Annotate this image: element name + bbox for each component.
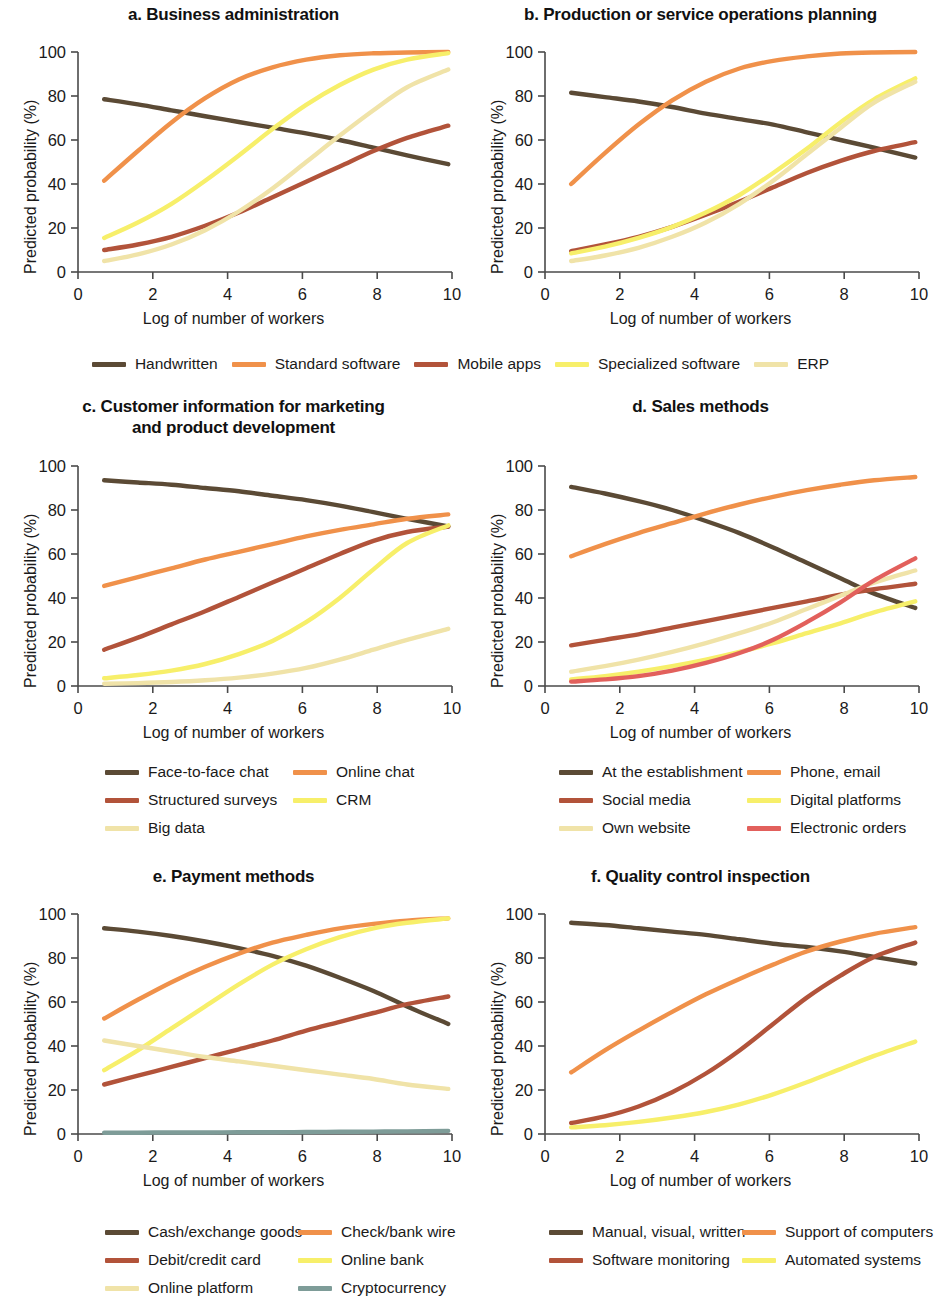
- panel-f-x-axis-label: Log of number of workers: [467, 1172, 934, 1190]
- y-tick-label: 0: [57, 263, 66, 281]
- legend-panels-ef: Cash/exchange goodsCheck/bank wireDebit/…: [0, 1218, 935, 1302]
- legend-item[interactable]: Support of computers: [742, 1218, 935, 1246]
- y-tick-label: 60: [48, 131, 66, 149]
- panel-e-plot: Predicted probability (%) 02040608010002…: [0, 896, 467, 1166]
- legend-panels-ab: HandwrittenStandard softwareMobile appsS…: [0, 350, 935, 378]
- legend-item-label: Online bank: [341, 1246, 424, 1274]
- panel-f-y-axis-label: Predicted probability (%): [489, 962, 507, 1136]
- legend-item[interactable]: ERP: [754, 350, 843, 378]
- panel-a-svg: 0204060801000246810: [0, 34, 467, 304]
- legend-item[interactable]: Online chat: [293, 758, 481, 786]
- y-tick-label: 100: [505, 457, 533, 475]
- legend-item-label: Handwritten: [135, 350, 218, 378]
- legend-item[interactable]: Software monitoring: [549, 1246, 742, 1274]
- legend-item-label: At the establishment: [602, 758, 742, 786]
- y-tick-label: 100: [38, 43, 66, 61]
- legend-item[interactable]: CRM: [293, 786, 481, 814]
- x-tick-label: 4: [223, 699, 232, 717]
- x-tick-label: 10: [910, 699, 928, 717]
- x-tick-label: 6: [765, 1147, 774, 1165]
- panel-c-title-line1: c. Customer information for marketing: [82, 397, 384, 416]
- x-tick-label: 10: [910, 285, 928, 303]
- y-tick-label: 40: [515, 175, 533, 193]
- legend-item[interactable]: Social media: [559, 786, 747, 814]
- legend-swatch-icon: [293, 770, 327, 775]
- legend-item[interactable]: Debit/credit card: [105, 1246, 298, 1274]
- legend-swatch-icon: [747, 826, 781, 831]
- y-tick-label: 100: [505, 43, 533, 61]
- series-line: [104, 52, 448, 181]
- legend-item[interactable]: Cryptocurrency: [298, 1274, 491, 1302]
- legend-swatch-icon: [549, 1230, 583, 1235]
- y-tick-label: 40: [48, 589, 66, 607]
- x-tick-label: 4: [690, 699, 699, 717]
- legend-item-label: Support of computers: [785, 1218, 933, 1246]
- x-tick-label: 10: [443, 1147, 461, 1165]
- legend-item[interactable]: At the establishment: [559, 758, 747, 786]
- x-tick-label: 8: [373, 285, 382, 303]
- legend-item[interactable]: Digital platforms: [747, 786, 935, 814]
- y-tick-label: 60: [515, 993, 533, 1011]
- panel-a-plot: Predicted probability (%) 02040608010002…: [0, 34, 467, 304]
- legend-ab-items: HandwrittenStandard softwareMobile appsS…: [0, 350, 935, 378]
- y-tick-label: 80: [515, 501, 533, 519]
- panel-d-svg: 0204060801000246810: [467, 448, 934, 718]
- legend-swatch-icon: [232, 362, 266, 367]
- legend-item[interactable]: Big data: [105, 814, 293, 842]
- y-tick-label: 20: [48, 633, 66, 651]
- series-line: [104, 99, 448, 164]
- x-tick-label: 4: [690, 1147, 699, 1165]
- panel-row-1: a. Business administration Predicted pro…: [0, 0, 935, 328]
- panel-c: c. Customer information for marketing an…: [0, 392, 467, 742]
- legend-item-label: Software monitoring: [592, 1246, 730, 1274]
- x-tick-label: 6: [298, 285, 307, 303]
- legend-item[interactable]: Phone, email: [747, 758, 935, 786]
- series-line: [571, 923, 915, 964]
- panel-c-svg: 0204060801000246810: [0, 448, 467, 718]
- x-tick-label: 4: [690, 285, 699, 303]
- x-tick-label: 10: [910, 1147, 928, 1165]
- legend-item[interactable]: Standard software: [232, 350, 415, 378]
- legend-item[interactable]: Online bank: [298, 1246, 491, 1274]
- legend-item[interactable]: Check/bank wire: [298, 1218, 491, 1246]
- x-tick-label: 0: [540, 285, 549, 303]
- y-tick-label: 20: [515, 219, 533, 237]
- legend-item[interactable]: Face-to-face chat: [105, 758, 293, 786]
- legend-item[interactable]: Automated systems: [742, 1246, 935, 1274]
- legend-item[interactable]: Own website: [559, 814, 747, 842]
- x-tick-label: 0: [540, 699, 549, 717]
- legend-swatch-icon: [298, 1286, 332, 1291]
- y-tick-label: 80: [48, 501, 66, 519]
- legend-item[interactable]: Structured surveys: [105, 786, 293, 814]
- legend-item[interactable]: Mobile apps: [414, 350, 555, 378]
- legend-swatch-icon: [105, 798, 139, 803]
- legend-item[interactable]: Manual, visual, written: [549, 1218, 742, 1246]
- legend-item-label: CRM: [336, 786, 371, 814]
- panel-b: b. Production or service operations plan…: [467, 0, 934, 328]
- panel-b-y-axis-label: Predicted probability (%): [489, 100, 507, 274]
- x-tick-label: 2: [615, 285, 624, 303]
- y-tick-label: 40: [515, 589, 533, 607]
- legend-swatch-icon: [105, 1258, 139, 1263]
- legend-item-label: Face-to-face chat: [148, 758, 269, 786]
- legend-item[interactable]: Handwritten: [92, 350, 232, 378]
- panel-e-x-axis-label: Log of number of workers: [0, 1172, 467, 1190]
- panel-a-y-axis-label: Predicted probability (%): [22, 100, 40, 274]
- legend-swatch-icon: [298, 1230, 332, 1235]
- x-tick-label: 2: [148, 1147, 157, 1165]
- legend-swatch-icon: [742, 1258, 776, 1263]
- y-tick-label: 20: [515, 633, 533, 651]
- legend-item[interactable]: Electronic orders: [747, 814, 935, 842]
- x-tick-label: 8: [373, 699, 382, 717]
- panel-b-svg: 0204060801000246810: [467, 34, 934, 304]
- legend-item[interactable]: Online platform: [105, 1274, 298, 1302]
- legend-item[interactable]: Cash/exchange goods: [105, 1218, 298, 1246]
- legend-e-items: Cash/exchange goodsCheck/bank wireDebit/…: [0, 1218, 491, 1302]
- legend-swatch-icon: [754, 362, 788, 367]
- y-tick-label: 20: [48, 219, 66, 237]
- series-line: [104, 70, 448, 261]
- legend-swatch-icon: [555, 362, 589, 367]
- x-tick-label: 6: [765, 285, 774, 303]
- legend-item-label: Specialized software: [598, 350, 740, 378]
- legend-item[interactable]: Specialized software: [555, 350, 754, 378]
